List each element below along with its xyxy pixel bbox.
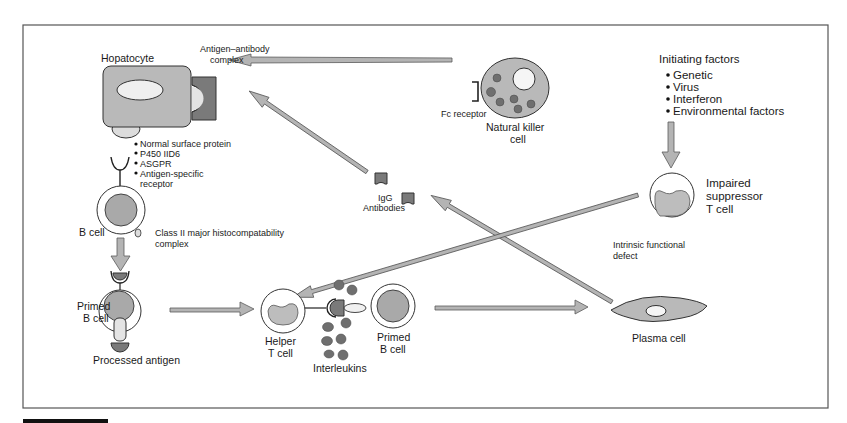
initiating-factor-item: Virus bbox=[673, 81, 699, 93]
suppressor-label-3: T cell bbox=[706, 203, 733, 215]
arrow-factors-to-suppressor bbox=[662, 122, 680, 168]
hepatocyte-label: Hopatocyte bbox=[101, 52, 154, 64]
interleukins-label: Interleukins bbox=[313, 362, 367, 374]
plasma-cell-label: Plasma cell bbox=[632, 332, 686, 344]
intrinsic-defect-label-1: Intrinsic functional bbox=[613, 240, 685, 250]
surface-protein-item: P450 IID6 bbox=[140, 149, 180, 159]
hepatocyte-nucleus bbox=[117, 80, 163, 100]
initiating-factor-item: Genetic bbox=[673, 69, 713, 81]
initiating-factor-item: Environmental factors bbox=[673, 105, 784, 117]
intrinsic-defect-label-2: defect bbox=[613, 251, 638, 261]
arrow-nk-to-hepatocyte bbox=[229, 54, 452, 66]
antigen-antibody-label-2: complex bbox=[210, 55, 244, 65]
primed-b-cell-mid-label-1: Primed bbox=[377, 331, 410, 343]
antigen-antibody-label-1: Antigen–antibody bbox=[200, 44, 270, 54]
suppressor-label-1: Impaired bbox=[706, 177, 751, 189]
surface-protein-item: ASGPR bbox=[140, 159, 172, 169]
b-cell-label: B cell bbox=[79, 226, 105, 238]
nk-cell-label-1: Natural killer bbox=[486, 121, 545, 133]
primed-b-cell-left-label-2: B cell bbox=[83, 312, 109, 324]
mhc-label-1: Class II major histocompatability bbox=[155, 228, 285, 238]
igg-label-2: Antibodies bbox=[363, 203, 406, 213]
interleukin-dots bbox=[322, 280, 358, 360]
igg-label-1: IgG bbox=[378, 193, 393, 203]
arrow-primed-to-helper bbox=[170, 302, 254, 316]
surface-protein-item: Normal surface protein bbox=[140, 139, 231, 149]
arrow-primed-to-plasma bbox=[435, 300, 588, 314]
surface-protein-list: Normal surface protein P450 IID6 ASGPR A… bbox=[134, 139, 231, 189]
surface-protein-item-cont: receptor bbox=[140, 179, 173, 189]
helper-t-cell-label-1: Helper bbox=[265, 335, 296, 347]
igg-antibody-1 bbox=[375, 173, 387, 184]
hepatocyte-cell bbox=[103, 66, 216, 138]
arrow-bcell-to-primed bbox=[111, 238, 130, 271]
diagram-canvas: Hopatocyte Antigen–antibody complex Norm… bbox=[0, 0, 847, 423]
nk-cell-label-2: cell bbox=[510, 133, 526, 145]
helper-t-cell-label-2: T cell bbox=[268, 347, 293, 359]
primed-b-cell-left-label-1: Primed bbox=[77, 300, 110, 312]
processed-antigen-label: Processed antigen bbox=[93, 354, 180, 366]
initiating-factors-list: Genetic Virus Interferon Environmental f… bbox=[666, 69, 784, 117]
impaired-suppressor-t-cell bbox=[650, 173, 694, 217]
b-cell bbox=[97, 157, 145, 237]
primed-b-cell-mid bbox=[371, 284, 415, 328]
primed-b-cell-mid-label-2: B cell bbox=[380, 343, 406, 355]
plasma-cell bbox=[611, 297, 707, 322]
figure-caption-bar bbox=[23, 419, 108, 423]
initiating-factor-item: Interferon bbox=[673, 93, 722, 105]
initiating-factors-title: Initiating factors bbox=[659, 53, 740, 65]
mhc-label-2: complex bbox=[155, 239, 189, 249]
arrow-igg-to-hepatocyte bbox=[246, 86, 371, 177]
suppressor-label-2: suppressor bbox=[706, 190, 763, 202]
fc-receptor-label: Fc receptor bbox=[441, 109, 487, 119]
surface-protein-item: Antigen-specific bbox=[140, 169, 204, 179]
